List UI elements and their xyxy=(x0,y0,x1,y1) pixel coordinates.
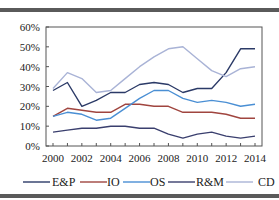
x-tick-label: 2004 xyxy=(100,152,123,164)
x-tick-label: 2012 xyxy=(215,152,237,164)
legend-label: IO xyxy=(107,175,120,189)
series-line-rm xyxy=(53,126,255,138)
y-tick-label: 20% xyxy=(20,100,40,112)
x-tick-label: 2008 xyxy=(157,152,180,164)
x-tick-label: 2002 xyxy=(71,152,93,164)
legend-label: R&M xyxy=(196,175,224,189)
line-chart: 0%10%20%30%40%50%60% 2000200220042006200… xyxy=(0,0,279,200)
y-tick-label: 40% xyxy=(20,61,40,73)
x-tick-label: 2010 xyxy=(186,152,209,164)
legend-label: E&P xyxy=(52,175,76,189)
legend: E&PIOOSR&MCD xyxy=(23,175,275,189)
y-tick-label: 10% xyxy=(20,120,40,132)
y-tick-label: 50% xyxy=(20,41,40,53)
legend-label: OS xyxy=(150,175,165,189)
x-tick-label: 2014 xyxy=(244,152,267,164)
y-axis-ticks: 0%10%20%30%40%50%60% xyxy=(20,21,49,152)
series-line-cd xyxy=(53,47,255,93)
series-lines xyxy=(53,47,255,138)
legend-label: CD xyxy=(258,175,275,189)
y-tick-label: 0% xyxy=(25,140,40,152)
x-tick-label: 2000 xyxy=(42,152,65,164)
y-tick-label: 30% xyxy=(20,81,40,93)
x-tick-label: 2006 xyxy=(129,152,152,164)
y-tick-label: 60% xyxy=(20,21,40,33)
